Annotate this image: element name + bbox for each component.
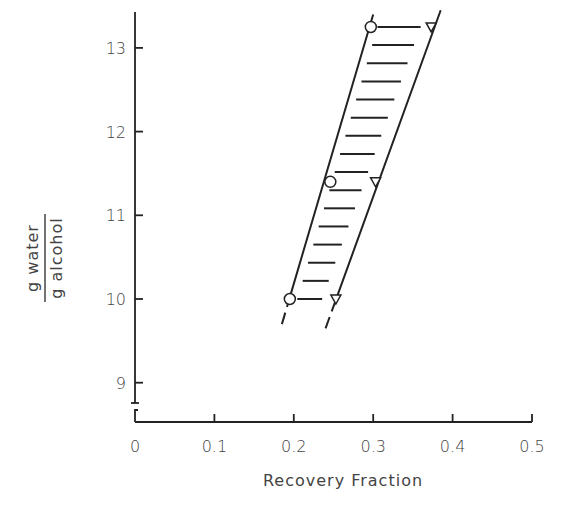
- x-tick-label: 0.2: [281, 437, 306, 456]
- x-ticks: [214, 414, 532, 422]
- y-axis-title-denominator: g alcohol: [47, 217, 66, 298]
- circle-marker: [325, 176, 336, 187]
- y-tick-label: 10: [106, 290, 126, 309]
- x-tick-label: 0.3: [360, 437, 385, 456]
- band-right-boundary: [326, 10, 441, 328]
- chart: 00.10.20.30.40.5 910111213 Recovery Frac…: [0, 0, 564, 512]
- y-ticks: [135, 48, 143, 383]
- y-tick-label: 11: [106, 206, 126, 225]
- x-tick-label: 0.5: [519, 437, 544, 456]
- y-axis-title: g water g alcohol: [23, 214, 66, 302]
- triangle-marker: [331, 295, 341, 304]
- x-axis-title: Recovery Fraction: [263, 471, 423, 490]
- circle-marker: [365, 21, 376, 32]
- y-axis-title-numerator: g water: [23, 224, 42, 292]
- x-tick-label: 0.1: [202, 437, 227, 456]
- recovery-band: [282, 10, 441, 328]
- circle-marker: [284, 294, 295, 305]
- y-tick-label: 9: [116, 374, 126, 393]
- y-tick-labels: 910111213: [106, 39, 126, 393]
- axes: [131, 12, 532, 422]
- x-tick-labels: 00.10.20.30.40.5: [130, 437, 545, 456]
- x-tick-label: 0.4: [440, 437, 465, 456]
- x-tick-label: 0: [130, 437, 140, 456]
- y-tick-label: 12: [106, 123, 126, 142]
- y-axis-break-mark: [135, 410, 138, 422]
- y-tick-label: 13: [106, 39, 126, 58]
- data-markers: [284, 21, 436, 304]
- band-left-boundary: [282, 14, 373, 324]
